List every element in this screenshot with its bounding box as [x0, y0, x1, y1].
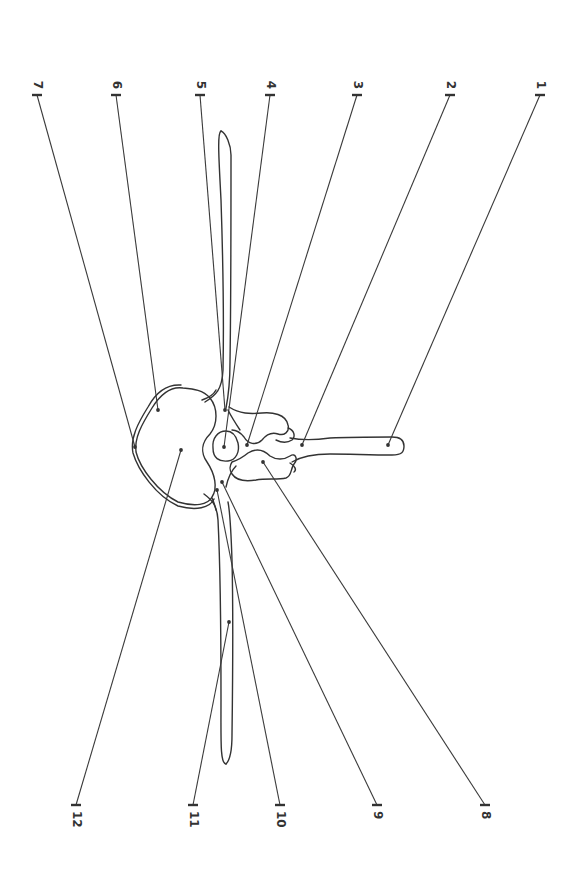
- leader-line: [76, 450, 181, 805]
- leader-line: [222, 482, 377, 805]
- annotation-layer: 765432112111098: [31, 81, 548, 828]
- leader-line: [116, 95, 158, 410]
- label-8: 8: [261, 460, 492, 819]
- spinous-process: [290, 437, 404, 462]
- leader-line: [193, 622, 229, 805]
- vertebra-diagram: 765432112111098: [0, 0, 588, 887]
- pointer-dot: [300, 443, 304, 447]
- label-number: 8: [479, 811, 493, 819]
- articular-processes: [229, 407, 296, 481]
- label-number: 2: [444, 81, 458, 89]
- pointer-dot: [179, 448, 183, 452]
- label-1: 1: [386, 81, 547, 447]
- leader-line: [200, 95, 225, 410]
- pointer-dot: [222, 445, 226, 449]
- label-12: 12: [70, 448, 183, 828]
- label-number: 11: [187, 811, 201, 828]
- label-number: 6: [110, 81, 124, 89]
- pointer-dot: [227, 620, 231, 624]
- leader-line: [302, 95, 450, 445]
- pointer-dot: [245, 443, 249, 447]
- label-9: 9: [220, 480, 384, 819]
- label-2: 2: [300, 81, 457, 447]
- label-number: 4: [264, 81, 278, 89]
- pointer-dot: [156, 408, 160, 412]
- upper-pedicle: [228, 410, 240, 430]
- leader-line: [388, 95, 540, 445]
- label-number: 10: [274, 811, 288, 828]
- label-6: 6: [110, 81, 160, 412]
- label-3: 3: [245, 81, 364, 447]
- label-number: 12: [70, 811, 84, 828]
- label-number: 9: [371, 811, 385, 819]
- lower-transverse-process: [204, 494, 233, 764]
- pointer-dot: [261, 460, 265, 464]
- label-11: 11: [187, 620, 231, 828]
- label-10: 10: [215, 488, 287, 828]
- label-number: 5: [194, 81, 208, 89]
- pointer-dot: [133, 445, 137, 449]
- label-number: 3: [351, 81, 365, 89]
- label-number: 1: [534, 81, 548, 89]
- pointer-dot: [223, 408, 227, 412]
- vertebral-body: [132, 385, 216, 508]
- pointer-dot: [386, 443, 390, 447]
- pointer-dot: [215, 488, 219, 492]
- leader-line: [37, 95, 135, 447]
- leader-line: [263, 462, 485, 805]
- pointer-dot: [220, 480, 224, 484]
- label-number: 7: [31, 81, 45, 89]
